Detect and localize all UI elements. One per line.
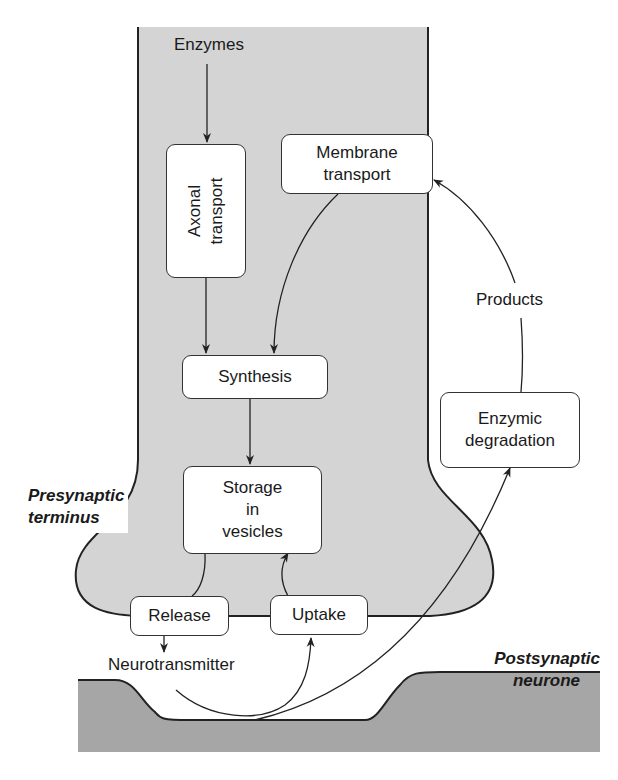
- storage-line2: in: [222, 499, 282, 521]
- storage-line3: vesicles: [222, 521, 282, 543]
- arrow-degradation-to-products: [521, 318, 523, 392]
- uptake-box: Uptake: [270, 595, 368, 635]
- axonal-transport-line2: transport: [206, 177, 228, 244]
- storage-line1: Storage: [222, 477, 282, 499]
- presynaptic-label-line2: terminus: [28, 507, 124, 529]
- enzymic-degradation-line2: degradation: [465, 430, 555, 452]
- axonal-transport-text: Axonal transport: [184, 177, 228, 244]
- enzymes-label: Enzymes: [174, 34, 244, 56]
- axonal-transport-box: Axonal transport: [166, 144, 246, 278]
- storage-in-vesicles-box: Storage in vesicles: [183, 466, 322, 554]
- neurotransmitter-label: Neurotransmitter: [108, 654, 235, 676]
- uptake-text: Uptake: [292, 604, 346, 626]
- axonal-transport-line1: Axonal: [184, 177, 206, 244]
- enzymic-degradation-line1: Enzymic: [465, 408, 555, 430]
- membrane-transport-line1: Membrane: [316, 142, 397, 164]
- postsynaptic-label-line2: neurone: [486, 670, 600, 692]
- membrane-transport-line2: transport: [316, 164, 397, 186]
- products-label: Products: [476, 289, 543, 311]
- membrane-transport-box: Membrane transport: [281, 134, 433, 194]
- arrow-products-to-membrane: [434, 180, 515, 283]
- release-box: Release: [130, 596, 229, 636]
- arrow-neurotransmitter-to-uptake: [176, 638, 311, 716]
- enzymic-degradation-box: Enzymic degradation: [440, 392, 580, 468]
- synthesis-text: Synthesis: [218, 366, 292, 388]
- presynaptic-terminus-label: Presynaptic terminus: [26, 483, 128, 533]
- postsynaptic-neurone-label: Postsynaptic neurone: [486, 648, 600, 692]
- synthesis-box: Synthesis: [182, 355, 328, 399]
- release-text: Release: [148, 605, 210, 627]
- postsynaptic-label-line1: Postsynaptic: [486, 648, 600, 670]
- presynaptic-label-line1: Presynaptic: [28, 485, 124, 507]
